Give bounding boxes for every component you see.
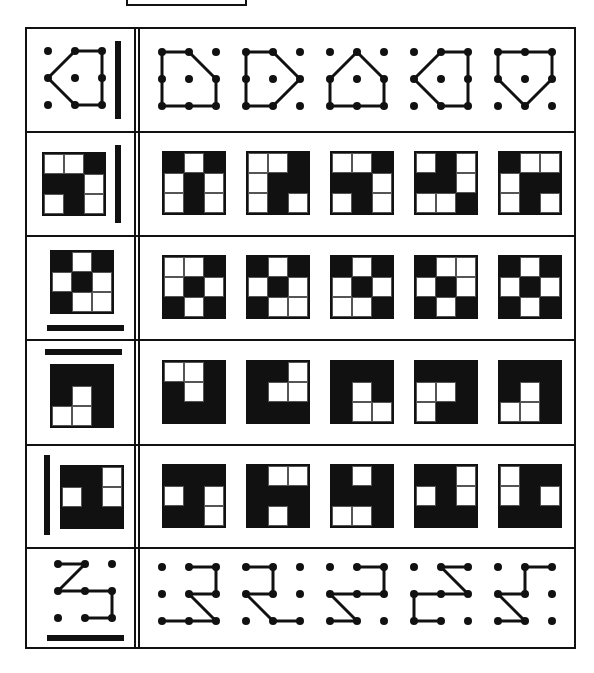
white-cell xyxy=(500,402,520,422)
edge-line xyxy=(414,52,441,79)
grid-dot xyxy=(326,590,334,598)
answer-option-4-4[interactable] xyxy=(414,360,478,424)
edge-line xyxy=(441,567,468,594)
grid-dot xyxy=(521,102,529,110)
white-cell xyxy=(540,486,560,506)
answer-option-2-3[interactable] xyxy=(330,151,394,215)
black-cell xyxy=(436,466,456,486)
answer-option-2-2[interactable] xyxy=(246,151,310,215)
grid-dot xyxy=(380,563,388,571)
answer-option-5-3[interactable] xyxy=(330,464,394,528)
white-cell xyxy=(436,382,456,402)
white-cell xyxy=(352,402,372,422)
grid-dot xyxy=(521,75,529,83)
answer-option-1-4[interactable] xyxy=(409,47,473,111)
white-cell xyxy=(372,173,392,193)
edge-line xyxy=(246,594,273,621)
black-cell xyxy=(82,467,102,487)
white-cell xyxy=(62,487,82,507)
white-cell xyxy=(540,153,560,173)
black-cell xyxy=(416,362,436,382)
edge-line xyxy=(273,52,300,79)
white-cell xyxy=(268,297,288,317)
white-cell xyxy=(204,277,224,297)
answer-option-3-1[interactable] xyxy=(162,255,226,319)
answer-option-6-2[interactable] xyxy=(241,562,305,626)
edge-line xyxy=(48,78,75,105)
white-cell xyxy=(164,193,184,213)
white-cell xyxy=(500,486,520,506)
answer-option-3-4[interactable] xyxy=(414,255,478,319)
mirror-bar-icon xyxy=(47,635,124,641)
answer-option-1-5[interactable] xyxy=(493,47,557,111)
white-cell xyxy=(248,153,268,173)
black-cell xyxy=(248,466,268,486)
black-cell xyxy=(416,257,436,277)
white-cell xyxy=(164,173,184,193)
black-cell xyxy=(92,386,112,406)
answer-option-4-5[interactable] xyxy=(498,360,562,424)
answer-option-1-3[interactable] xyxy=(325,47,389,111)
grid-dot xyxy=(242,563,250,571)
black-cell xyxy=(456,193,476,213)
answer-option-1-2[interactable] xyxy=(241,47,305,111)
black-cell xyxy=(456,506,476,526)
grid-dot xyxy=(269,75,277,83)
white-cell xyxy=(72,406,92,426)
black-cell xyxy=(500,153,520,173)
grid-dot xyxy=(494,563,502,571)
answer-option-2-1[interactable] xyxy=(162,151,226,215)
answer-option-3-3[interactable] xyxy=(330,255,394,319)
black-cell xyxy=(288,153,308,173)
black-cell xyxy=(164,153,184,173)
answer-option-5-4[interactable] xyxy=(414,464,478,528)
answer-option-6-4[interactable] xyxy=(409,562,473,626)
grid-dot xyxy=(410,48,418,56)
black-cell xyxy=(52,366,72,386)
answer-option-6-3[interactable] xyxy=(325,562,389,626)
answer-option-4-2[interactable] xyxy=(246,360,310,424)
black-cell xyxy=(416,506,436,526)
white-cell xyxy=(436,257,456,277)
answer-option-3-5[interactable] xyxy=(498,255,562,319)
row-divider xyxy=(27,547,574,549)
black-cell xyxy=(540,466,560,486)
question-figure-4 xyxy=(50,364,114,428)
white-cell xyxy=(288,277,308,297)
black-cell xyxy=(332,466,352,486)
mirror-bar-icon xyxy=(115,145,121,223)
black-cell xyxy=(268,486,288,506)
answer-option-5-5[interactable] xyxy=(498,464,562,528)
answer-option-3-2[interactable] xyxy=(246,255,310,319)
grid-dot xyxy=(108,587,116,595)
grid-dot xyxy=(81,560,89,568)
grid-dot xyxy=(71,47,79,55)
black-cell xyxy=(540,506,560,526)
answer-option-5-1[interactable] xyxy=(162,464,226,528)
black-cell xyxy=(164,506,184,526)
answer-option-5-2[interactable] xyxy=(246,464,310,528)
answer-option-2-5[interactable] xyxy=(498,151,562,215)
black-cell xyxy=(500,297,520,317)
answer-option-2-4[interactable] xyxy=(414,151,478,215)
grid-dot xyxy=(494,102,502,110)
answer-option-6-5[interactable] xyxy=(493,562,557,626)
grid-dot xyxy=(98,47,106,55)
grid-dot xyxy=(494,590,502,598)
answer-option-4-1[interactable] xyxy=(162,360,226,424)
white-cell xyxy=(456,277,476,297)
answer-option-4-3[interactable] xyxy=(330,360,394,424)
grid-dot xyxy=(437,48,445,56)
grid-dot xyxy=(212,75,220,83)
black-cell xyxy=(456,402,476,422)
answer-option-6-1[interactable] xyxy=(157,562,221,626)
white-cell xyxy=(456,153,476,173)
white-cell xyxy=(436,297,456,317)
grid-dot xyxy=(54,587,62,595)
grid-dot xyxy=(548,75,556,83)
white-cell xyxy=(164,277,184,297)
black-cell xyxy=(82,507,102,527)
grid-dot xyxy=(242,48,250,56)
answer-option-1-1[interactable] xyxy=(157,47,221,111)
black-cell xyxy=(204,466,224,486)
